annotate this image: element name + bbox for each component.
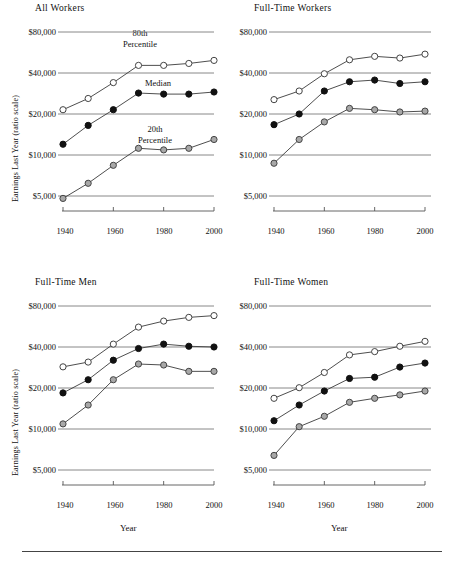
plot-area (219, 274, 449, 514)
data-point (60, 107, 66, 113)
data-point (372, 349, 378, 355)
data-point (422, 51, 428, 57)
data-point (85, 359, 91, 365)
data-point (135, 62, 141, 68)
data-point (85, 402, 91, 408)
series-line-median (274, 80, 425, 125)
x-tick-label: 1960 (98, 226, 132, 236)
x-tick-label: 1980 (147, 500, 181, 510)
x-tick-label: 1980 (358, 500, 392, 510)
data-point (422, 108, 428, 114)
x-tick-label: 1960 (309, 226, 343, 236)
data-point (211, 89, 217, 95)
data-point (422, 79, 428, 85)
data-point (271, 395, 277, 401)
data-point (60, 421, 66, 427)
x-tick-label: 1960 (309, 500, 343, 510)
data-point (271, 122, 277, 128)
data-point (296, 111, 302, 117)
data-point (346, 399, 352, 405)
data-point (60, 364, 66, 370)
data-point (372, 77, 378, 83)
x-tick-label: 1940 (48, 226, 82, 236)
x-tick-label: 1940 (259, 226, 293, 236)
data-point (372, 53, 378, 59)
data-point (110, 357, 116, 363)
plot-area (0, 0, 225, 240)
data-point (85, 180, 91, 186)
data-point (321, 413, 327, 419)
data-point (135, 324, 141, 330)
footer-rule (22, 551, 442, 552)
data-point (271, 160, 277, 166)
data-point (397, 392, 403, 398)
panel-full-time-women: Full-Time Women $80,000 $40,000 $20,000 … (219, 274, 449, 566)
data-point (271, 97, 277, 103)
data-point (135, 145, 141, 151)
data-point (296, 424, 302, 430)
data-point (296, 136, 302, 142)
data-point (60, 141, 66, 147)
data-point (346, 57, 352, 63)
x-tick-label: 1980 (358, 226, 392, 236)
x-axis-label: Year (331, 523, 348, 533)
data-point (161, 147, 167, 153)
data-point (422, 338, 428, 344)
panel-full-time-workers: Full-Time Workers $80,000 $40,000 $20,00… (219, 0, 449, 280)
data-point (135, 90, 141, 96)
data-point (397, 364, 403, 370)
data-point (161, 91, 167, 97)
data-point (372, 395, 378, 401)
data-point (211, 57, 217, 63)
data-point (296, 385, 302, 391)
data-point (321, 71, 327, 77)
data-point (110, 107, 116, 113)
series-line-median (274, 363, 425, 421)
figure-root: Earnings Last Year (ratio scale) All Wor… (0, 0, 449, 566)
data-point (186, 145, 192, 151)
data-point (346, 375, 352, 381)
x-axis-label: Year (120, 523, 137, 533)
x-tick-label: 2000 (408, 226, 442, 236)
data-point (271, 418, 277, 424)
data-point (346, 352, 352, 358)
data-point (135, 345, 141, 351)
data-point (161, 362, 167, 368)
data-point (85, 122, 91, 128)
plot-area (219, 0, 449, 240)
data-point (85, 95, 91, 101)
plot-area (0, 274, 225, 514)
data-point (271, 452, 277, 458)
data-point (321, 369, 327, 375)
data-point (296, 402, 302, 408)
data-point (186, 314, 192, 320)
data-point (186, 60, 192, 66)
data-point (422, 388, 428, 394)
data-point (397, 55, 403, 61)
data-point (110, 341, 116, 347)
data-point (321, 388, 327, 394)
data-point (346, 105, 352, 111)
panel-all-workers: Earnings Last Year (ratio scale) All Wor… (0, 0, 225, 280)
data-point (110, 80, 116, 86)
data-point (211, 136, 217, 142)
x-tick-label: 1940 (259, 500, 293, 510)
x-tick-label: 1940 (48, 500, 82, 510)
data-point (397, 343, 403, 349)
data-point (186, 343, 192, 349)
data-point (186, 91, 192, 97)
data-point (135, 361, 141, 367)
data-point (321, 119, 327, 125)
data-point (110, 377, 116, 383)
data-point (110, 162, 116, 168)
data-point (397, 80, 403, 86)
data-point (296, 88, 302, 94)
data-point (161, 318, 167, 324)
series-line-80th-percentile (63, 316, 214, 367)
x-tick-label: 2000 (408, 500, 442, 510)
data-point (372, 374, 378, 380)
data-point (60, 390, 66, 396)
data-point (161, 341, 167, 347)
data-point (211, 368, 217, 374)
data-point (161, 62, 167, 68)
